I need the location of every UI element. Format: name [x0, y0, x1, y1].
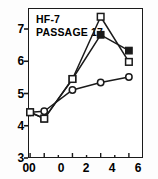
data-series-layer: [27, 13, 132, 122]
axis-ticks: [24, 29, 129, 158]
figure-panel: HF-7 PASSAGE 17 7 6 5 4 3 00 0 2 4 6: [0, 0, 158, 179]
chart-canvas: [0, 0, 158, 179]
